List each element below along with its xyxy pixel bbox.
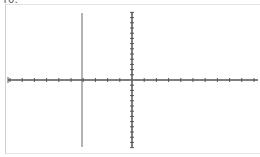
graph-canvas[interactable] bbox=[0, 0, 260, 157]
